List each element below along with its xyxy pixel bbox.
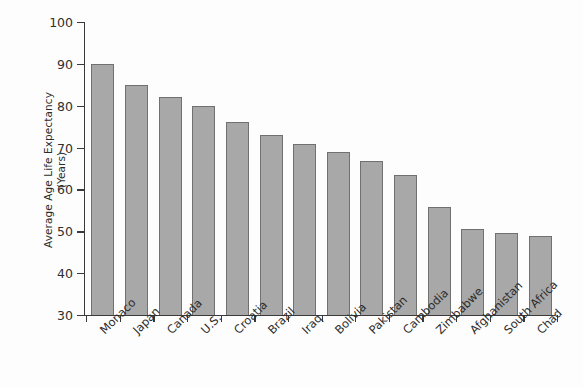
bar-chart: Average Age Life Expectancy (Years) 3040…	[0, 0, 583, 388]
plot-area: 30405060708090100 MonacoJapanCanadaU.S.C…	[84, 22, 555, 315]
y-tick-30	[77, 315, 84, 316]
y-tick-80	[77, 106, 84, 107]
y-axis-line	[84, 22, 85, 315]
y-tick-label-40: 40	[57, 266, 73, 281]
y-tick-60	[77, 189, 84, 190]
bar	[125, 85, 148, 315]
y-tick-label-30: 30	[57, 308, 73, 323]
y-axis-title-line-1: Average Age Life Expectancy	[42, 92, 54, 248]
bar	[226, 122, 249, 315]
y-tick-40	[77, 273, 84, 274]
bar	[91, 64, 114, 315]
bar	[360, 161, 383, 315]
y-tick-label-100: 100	[49, 15, 73, 30]
y-axis-title: Average Age Life Expectancy (Years)	[26, 0, 82, 340]
y-tick-label-70: 70	[57, 140, 73, 155]
y-tick-label-80: 80	[57, 98, 73, 113]
y-tick-50	[77, 231, 84, 232]
y-tick-70	[77, 148, 84, 149]
bar	[260, 135, 283, 315]
y-tick-90	[77, 64, 84, 65]
x-tick	[86, 315, 87, 322]
bar	[159, 97, 182, 315]
y-tick-label-50: 50	[57, 224, 73, 239]
y-tick-label-60: 60	[57, 182, 73, 197]
y-tick-100	[77, 22, 84, 23]
bar	[293, 144, 316, 315]
bar	[192, 106, 215, 315]
y-tick-label-90: 90	[57, 56, 73, 71]
bar	[327, 152, 350, 315]
